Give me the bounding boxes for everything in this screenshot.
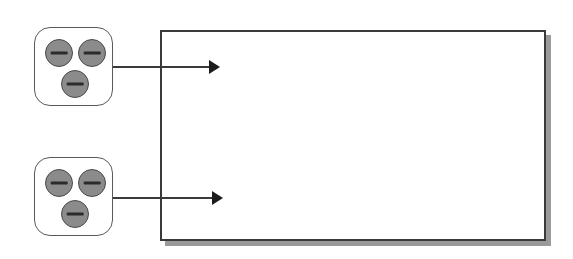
arrow-top-stem <box>113 66 209 68</box>
knob-slot-icon <box>67 83 84 86</box>
knob-slot-icon <box>84 52 101 55</box>
knob-top-left[interactable] <box>45 39 73 67</box>
knob-slot-icon <box>84 182 101 185</box>
device-unit-top[interactable] <box>34 27 113 106</box>
knob-top-right[interactable] <box>78 169 106 197</box>
arrow-top-head-icon <box>209 60 220 74</box>
knob-slot-icon <box>51 52 68 55</box>
knob-slot-icon <box>51 182 68 185</box>
knob-top-left[interactable] <box>45 169 73 197</box>
diagram-canvas <box>0 0 573 259</box>
arrow-bottom-head-icon <box>212 191 223 205</box>
device-unit-bottom[interactable] <box>34 157 113 236</box>
knob-top-right[interactable] <box>78 39 106 67</box>
knob-slot-icon <box>67 213 84 216</box>
knob-bottom-center[interactable] <box>61 70 89 98</box>
arrow-bottom-stem <box>113 197 212 199</box>
knob-bottom-center[interactable] <box>61 200 89 228</box>
